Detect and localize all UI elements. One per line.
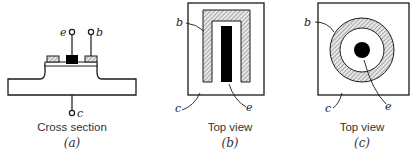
panel-b-collector-label: c [175,102,181,115]
panel-a-caption: Cross section [37,121,107,133]
panel-c-emitter-label: e [385,100,392,113]
panel-c-circular-top-view: b c e Top view (c) [304,3,409,150]
panel-a-sublabel: (a) [64,136,81,150]
panel-b-base-label: b [176,16,183,29]
collector-label: c [77,107,83,120]
base-contact-left [47,56,59,62]
panel-b-sublabel: (b) [221,136,238,150]
panel-b-emitter-label: e [246,101,253,114]
panel-c-base-label: b [304,16,311,29]
panel-c-caption: Top view [340,121,385,133]
emitter-contact [66,55,78,64]
emitter-stripe [221,26,232,82]
collector-substrate [8,64,136,95]
panel-a-cross-section: e b c Cross section (a) [8,26,136,150]
base-contact-right [85,56,97,62]
emitter-dot [354,42,370,58]
panel-c-collector-label: c [325,102,331,115]
base-terminal-icon [88,29,93,34]
emitter-terminal-icon [69,29,74,34]
base-label: b [96,26,103,39]
emitter-label: e [60,26,67,39]
collector-terminal-icon [69,110,74,115]
panel-b-stripe-top-view: b c e Top view (b) [175,3,264,150]
transistor-figure: e b c Cross section (a) b c e Top view (… [0,0,412,155]
panel-b-caption: Top view [208,121,253,133]
panel-c-sublabel: (c) [354,136,370,150]
